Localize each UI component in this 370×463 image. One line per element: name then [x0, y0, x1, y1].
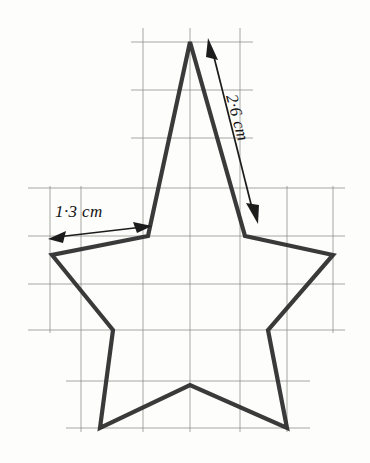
dimension-label-diagonal: 2·6 cm: [222, 92, 253, 143]
arrowhead-up-icon: [206, 38, 218, 60]
dimension-line-horizontal: [57, 227, 143, 237]
arrowhead-left-icon: [48, 231, 66, 243]
arrowhead-down-icon: [246, 203, 259, 224]
star-figure-svg: 1·3 cm 2·6 cm: [0, 0, 370, 463]
dimension-label-horizontal: 1·3 cm: [55, 202, 103, 221]
grid-group: [28, 28, 345, 432]
star-figure-container: 1·3 cm 2·6 cm: [0, 0, 370, 463]
star-outline: [52, 42, 333, 428]
